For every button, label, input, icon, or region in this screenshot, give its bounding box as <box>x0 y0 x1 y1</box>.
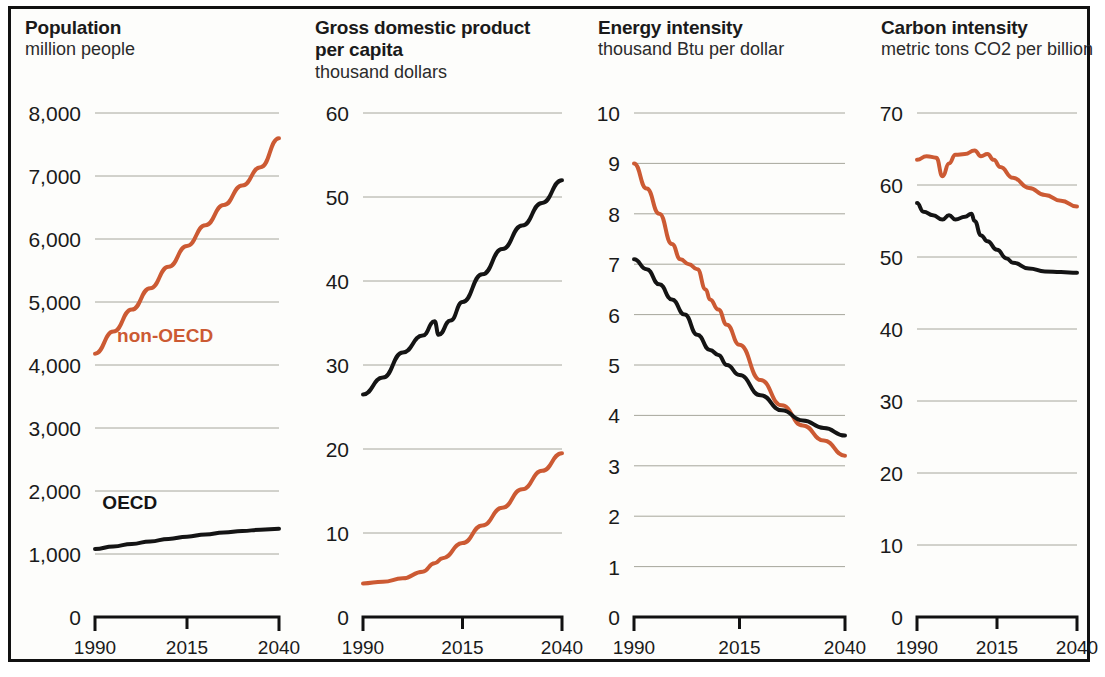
plot-canvas <box>584 9 867 659</box>
y-tick-label: 9 <box>584 153 620 174</box>
series-line-non-oecd <box>917 150 1077 206</box>
y-tick-label: 0 <box>867 607 903 628</box>
series-line-non-oecd <box>363 453 562 583</box>
chart-panel-4: Carbon intensitymetric tons CO2 per bill… <box>867 9 1087 659</box>
y-tick-label: 5,000 <box>11 292 81 313</box>
chart-panel-3: Energy intensitythousand Btu per dollar0… <box>584 9 867 659</box>
x-tick-label: 2040 <box>541 637 583 659</box>
y-tick-label: 3 <box>584 455 620 476</box>
series-line-non-oecd <box>634 163 845 455</box>
x-tick-label: 1990 <box>74 637 116 659</box>
y-tick-label: 1,000 <box>11 544 81 565</box>
x-tick-label: 2040 <box>1056 637 1098 659</box>
y-tick-label: 6,000 <box>11 229 81 250</box>
y-tick-label: 4 <box>584 405 620 426</box>
x-tick-label: 2040 <box>258 637 300 659</box>
series-line-oecd <box>917 203 1077 273</box>
x-tick-label: 2015 <box>976 637 1018 659</box>
y-tick-label: 2,000 <box>11 481 81 502</box>
y-tick-label: 40 <box>867 319 903 340</box>
y-tick-label: 3,000 <box>11 418 81 439</box>
y-tick-label: 4,000 <box>11 355 81 376</box>
plot-area: 012345678910199020152040 <box>584 9 867 659</box>
y-tick-label: 40 <box>301 271 349 292</box>
y-tick-label: 30 <box>867 391 903 412</box>
series-line-non-oecd <box>95 138 279 353</box>
x-tick-label: 1990 <box>896 637 938 659</box>
x-axis <box>95 617 279 631</box>
x-axis <box>917 617 1077 631</box>
y-tick-label: 10 <box>584 103 620 124</box>
y-tick-label: 1 <box>584 556 620 577</box>
x-axis <box>363 617 562 631</box>
y-tick-label: 30 <box>301 355 349 376</box>
y-tick-label: 50 <box>301 187 349 208</box>
x-tick-label: 2015 <box>166 637 208 659</box>
y-tick-label: 2 <box>584 506 620 527</box>
y-tick-label: 50 <box>867 247 903 268</box>
y-tick-label: 5 <box>584 355 620 376</box>
y-tick-label: 0 <box>301 607 349 628</box>
x-tick-label: 2040 <box>824 637 866 659</box>
plot-area: 010203040506070199020152040 <box>867 9 1087 659</box>
series-line-oecd <box>363 180 562 394</box>
x-axis <box>634 617 845 631</box>
y-tick-label: 8 <box>584 203 620 224</box>
plot-area: 0102030405060199020152040 <box>301 9 584 659</box>
series-line-oecd <box>634 259 845 435</box>
y-tick-label: 0 <box>584 607 620 628</box>
y-tick-label: 20 <box>301 439 349 460</box>
series-line-oecd <box>95 529 279 549</box>
y-tick-label: 7 <box>584 254 620 275</box>
plot-area: 01,0002,0003,0004,0005,0006,0007,0008,00… <box>11 9 301 659</box>
y-tick-label: 60 <box>301 103 349 124</box>
y-tick-label: 20 <box>867 463 903 484</box>
series-label-oecd: OECD <box>102 492 157 514</box>
series-label-non-oecd: non-OECD <box>117 325 213 347</box>
y-tick-label: 60 <box>867 175 903 196</box>
y-tick-label: 7,000 <box>11 166 81 187</box>
x-tick-label: 1990 <box>342 637 384 659</box>
figure-frame: Populationmillion people01,0002,0003,000… <box>8 6 1090 662</box>
x-tick-label: 2015 <box>718 637 760 659</box>
y-tick-label: 70 <box>867 103 903 124</box>
x-tick-label: 1990 <box>613 637 655 659</box>
y-tick-label: 0 <box>11 607 81 628</box>
y-tick-label: 10 <box>301 523 349 544</box>
y-tick-label: 6 <box>584 304 620 325</box>
y-tick-label: 10 <box>867 535 903 556</box>
chart-panel-2: Gross domestic productper capitathousand… <box>301 9 584 659</box>
x-tick-label: 2015 <box>441 637 483 659</box>
chart-panel-1: Populationmillion people01,0002,0003,000… <box>11 9 301 659</box>
y-tick-label: 8,000 <box>11 103 81 124</box>
